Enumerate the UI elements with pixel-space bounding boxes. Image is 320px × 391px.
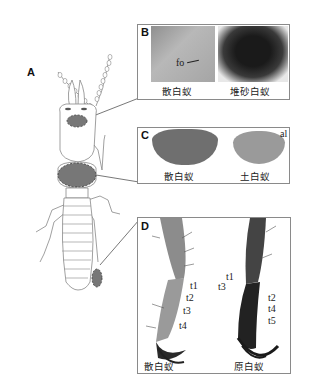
right-t3: t3	[218, 282, 226, 292]
panel-c: C al 散白蚁 土白蚁	[137, 127, 290, 184]
panel-b-label: B	[141, 26, 149, 38]
head-photo-right	[218, 26, 288, 82]
panel-a-label: A	[27, 66, 35, 78]
caption-c-right: 土白蚁	[240, 169, 270, 183]
caption-d-right: 原白蚁	[234, 359, 264, 373]
panel-b: B fo 散白蚁 堆砂白蚁	[137, 24, 290, 100]
left-t3: t3	[183, 306, 191, 316]
pronotum-photo-left	[152, 129, 218, 165]
left-t1: t1	[190, 281, 198, 291]
ventral-head-photo-left	[151, 26, 215, 82]
left-t4: t4	[179, 321, 187, 331]
fo-annotation: fo	[176, 58, 184, 68]
left-t2: t2	[186, 293, 194, 303]
right-t4: t4	[268, 304, 276, 314]
panel-d: D t1 t2 t3 t4 t1 t3 t2 t4 t5 散白蚁 原白蚁	[137, 217, 291, 374]
right-t5: t5	[268, 316, 276, 326]
caption-d-left: 散白蚁	[144, 359, 174, 373]
caption-b-left: 散白蚁	[162, 84, 192, 98]
caption-b-right: 堆砂白蚁	[230, 84, 270, 98]
right-t1: t1	[226, 272, 234, 282]
pronotum-photo-right	[233, 131, 285, 164]
panel-c-label: C	[141, 129, 149, 141]
al-annotation: al	[280, 129, 287, 139]
right-t2: t2	[268, 293, 276, 303]
caption-c-left: 散白蚁	[164, 169, 194, 183]
